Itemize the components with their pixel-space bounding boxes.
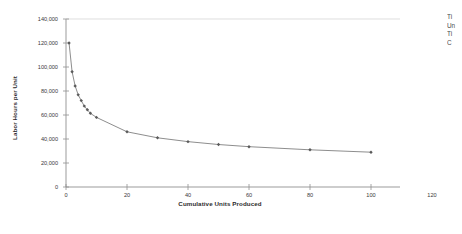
x-tick-label-80: 80	[298, 192, 322, 198]
x-tick-label-0: 0	[54, 192, 78, 198]
side-note-line-4: C	[447, 39, 462, 48]
side-note-line-2: Un	[447, 22, 462, 31]
y-tick-label-0: 0	[24, 184, 58, 190]
y-tick-label-80000: 80,000	[24, 88, 58, 94]
data-point-marker	[156, 136, 159, 139]
y-axis-title: Labor Hours per Unit	[11, 53, 18, 163]
data-point-marker	[369, 151, 372, 154]
x-tick-label-60: 60	[237, 192, 261, 198]
y-tick-label-60000: 60,000	[24, 112, 58, 118]
y-tick-label-20000: 20,000	[24, 160, 58, 166]
side-note-line-1: Ti	[447, 13, 462, 22]
chart-plot-area: 140,000 120,000 100,000 80,000 60,000 40…	[0, 0, 400, 215]
data-point-marker	[70, 70, 73, 73]
data-point-marker	[247, 145, 250, 148]
x-axis-title: Cumulative Units Produced	[130, 200, 310, 207]
y-tick-label-100000: 100,000	[24, 64, 58, 70]
y-tick-label-40000: 40,000	[24, 136, 58, 142]
data-point-marker	[186, 140, 189, 143]
learning-curve-figure: 140,000 120,000 100,000 80,000 60,000 40…	[0, 0, 462, 234]
axes-group	[66, 19, 400, 187]
side-note-line-3: Ti	[447, 30, 462, 39]
data-point-marker	[217, 143, 220, 146]
tick-marks-group	[63, 19, 400, 190]
y-tick-label-120000: 120,000	[24, 40, 58, 46]
x-tick-label-120: 120	[420, 192, 444, 198]
y-tick-label-140000: 140,000	[24, 16, 58, 22]
data-point-marker	[67, 41, 70, 44]
x-tick-label-100: 100	[359, 192, 383, 198]
data-point-marker	[308, 148, 311, 151]
data-point-marker	[77, 93, 80, 96]
side-note-text: Ti Un Ti C	[447, 13, 462, 47]
chart-svg	[0, 0, 400, 215]
data-point-marker	[80, 99, 83, 102]
series-line-labor-hours	[69, 43, 371, 152]
data-point-marker	[73, 84, 76, 87]
x-tick-label-20: 20	[115, 192, 139, 198]
data-point-marker	[125, 130, 128, 133]
series-markers-labor-hours	[67, 41, 372, 154]
x-tick-label-40: 40	[176, 192, 200, 198]
